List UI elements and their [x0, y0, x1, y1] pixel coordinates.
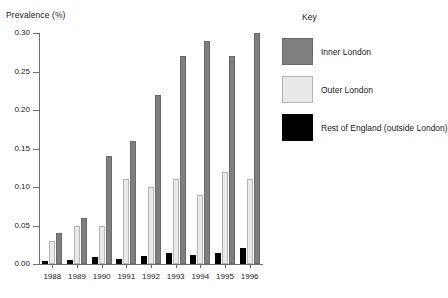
y-axis-tick-label: 0.05 — [0, 222, 30, 230]
bar — [92, 257, 98, 264]
legend-item-label: Outer London — [321, 85, 373, 95]
y-axis-tick — [33, 110, 39, 111]
bar — [141, 256, 147, 264]
bar — [173, 179, 179, 264]
y-axis-tick-label: 0.20 — [0, 106, 30, 114]
bar — [99, 226, 105, 265]
plot-area — [40, 33, 262, 264]
bar-group — [42, 33, 62, 264]
bar-group — [116, 33, 136, 264]
bar-group — [215, 33, 235, 264]
bar — [49, 241, 55, 264]
bar — [190, 255, 196, 264]
y-axis-tick — [33, 187, 39, 188]
y-axis-tick-label: 0.15 — [0, 145, 30, 153]
bar — [197, 195, 203, 264]
x-axis-tick — [200, 265, 201, 268]
bar — [130, 141, 136, 264]
legend-title: Key — [302, 12, 317, 22]
bar — [106, 156, 112, 264]
bar — [204, 41, 210, 264]
bar — [180, 56, 186, 264]
x-axis-tick — [126, 265, 127, 268]
bar — [247, 179, 253, 264]
x-axis-tick — [250, 265, 251, 268]
y-axis-tick — [33, 264, 39, 265]
bar-group — [67, 33, 87, 264]
bar — [215, 253, 221, 264]
bar-group — [166, 33, 186, 264]
bar — [148, 187, 154, 264]
legend-item-label: Inner London — [321, 47, 371, 57]
bar — [229, 56, 235, 264]
bar — [56, 233, 62, 264]
y-axis-tick-label: 0.00 — [0, 260, 30, 268]
y-axis-tick-label: 0.30 — [0, 29, 30, 37]
bar — [116, 259, 122, 264]
y-axis-tick-label: 0.25 — [0, 68, 30, 76]
x-axis-tick — [151, 265, 152, 268]
x-axis-tick — [102, 265, 103, 268]
bar — [74, 226, 80, 265]
y-axis-tick — [33, 149, 39, 150]
bar — [42, 261, 48, 264]
x-axis-tick — [225, 265, 226, 268]
y-axis-tick — [33, 226, 39, 227]
bar — [240, 248, 246, 264]
bar-group — [190, 33, 210, 264]
bar — [254, 33, 260, 264]
bar — [67, 260, 73, 264]
y-axis-tick-label: 0.10 — [0, 183, 30, 191]
legend-swatch-inner — [282, 38, 313, 65]
bar-group — [92, 33, 112, 264]
bar — [222, 172, 228, 264]
bar-group — [141, 33, 161, 264]
y-axis-tick — [33, 33, 39, 34]
legend-swatch-outer — [282, 76, 313, 103]
bar-group — [240, 33, 260, 264]
bar — [81, 218, 87, 264]
legend-swatch-rest — [282, 114, 313, 141]
bar — [166, 253, 172, 264]
x-axis-tick — [77, 265, 78, 268]
legend-item-label: Rest of England (outside London) — [321, 123, 448, 133]
y-axis-title: Prevalence (%) — [6, 10, 66, 20]
x-axis-tick-label: 1996 — [230, 272, 270, 281]
x-axis-tick — [52, 265, 53, 268]
y-axis-tick — [33, 72, 39, 73]
bar — [123, 179, 129, 264]
bar — [155, 95, 161, 264]
x-axis-tick — [176, 265, 177, 268]
